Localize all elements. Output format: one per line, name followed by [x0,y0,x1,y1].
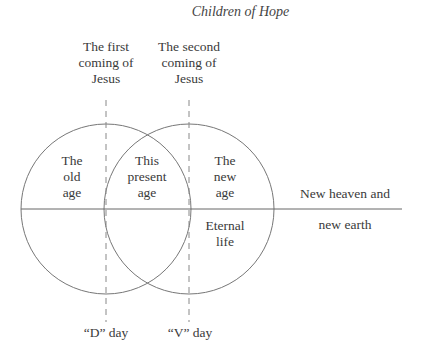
present-age-label: This present age [117,153,177,201]
new-heaven-label: New heaven and [285,186,405,202]
v-day-label: “V” day [150,325,230,341]
second-coming-label: The second coming of Jesus [144,39,234,87]
first-coming-label: The first coming of Jesus [66,39,146,87]
d-day-label: “D” day [66,325,146,341]
old-age-label: The old age [42,153,102,201]
new-age-label: The new age [195,153,255,201]
eternal-life-label: Eternal life [195,218,255,250]
new-earth-label: new earth [285,217,405,233]
